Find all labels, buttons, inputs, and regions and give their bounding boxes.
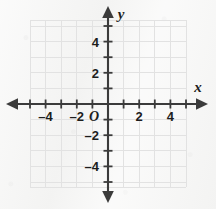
axis-lines [13, 13, 200, 196]
coordinate-plane-canvas: –4 –2 2 4 4 2 –2 –4 O x y [0, 0, 216, 209]
origin-label: O [89, 109, 99, 124]
y-tick-label: –2 [85, 128, 99, 143]
x-tick-label: –2 [70, 109, 84, 124]
arrow-right-icon [196, 98, 208, 110]
arrow-up-icon [102, 6, 114, 18]
y-tick-label: 2 [92, 66, 99, 81]
x-tick-label: 2 [136, 109, 143, 124]
x-tick-label: –4 [38, 109, 53, 124]
y-axis-label: y [116, 6, 125, 22]
arrow-left-icon [6, 98, 18, 110]
y-tick-label: –4 [85, 159, 100, 174]
arrow-down-icon [102, 191, 114, 203]
y-tick-label: 4 [92, 35, 100, 50]
x-axis-label: x [193, 79, 202, 95]
x-tick-label: 4 [167, 109, 175, 124]
coordinate-plane-figure: –4 –2 2 4 4 2 –2 –4 O x y [0, 0, 216, 209]
